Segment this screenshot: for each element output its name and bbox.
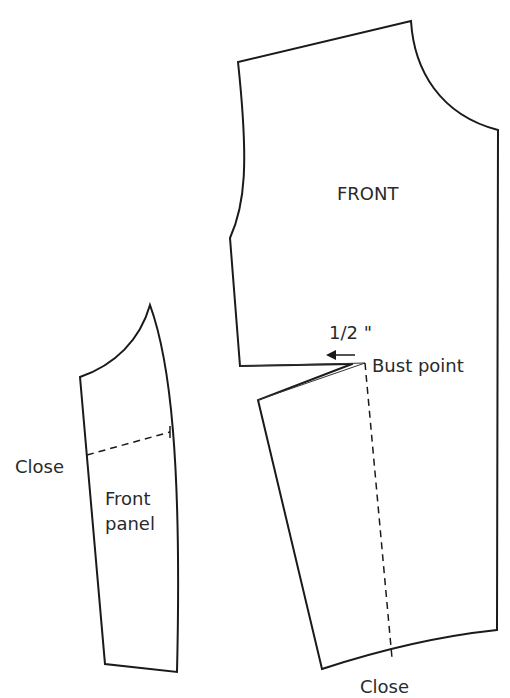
panel-label-line2: panel <box>105 513 155 534</box>
dart-leg-line <box>240 363 365 400</box>
front-piece <box>230 21 498 669</box>
pattern-diagram: FRONT 1/2 " Bust point Close Close Front… <box>0 0 510 698</box>
panel-close-dashed-line <box>87 432 170 455</box>
bust-point-label: Bust point <box>372 355 464 376</box>
close-dashed-line <box>365 363 392 658</box>
close-bottom-label: Close <box>360 676 409 697</box>
arrow-left-icon <box>326 350 355 360</box>
panel-label-line1: Front <box>105 488 151 509</box>
front-hem-outline <box>258 364 497 669</box>
measurement-label: 1/2 " <box>329 322 372 343</box>
close-panel-label: Close <box>15 456 64 477</box>
front-label: FRONT <box>337 183 399 204</box>
